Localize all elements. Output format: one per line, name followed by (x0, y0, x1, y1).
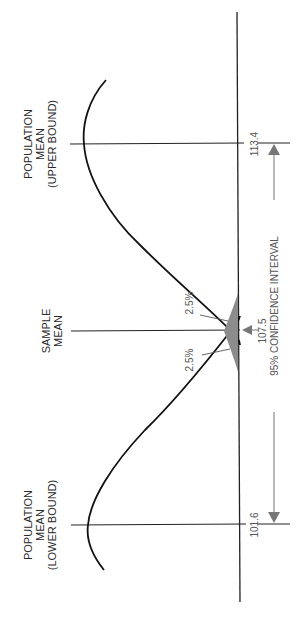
sample-mean-label-line2: MEAN (52, 315, 64, 347)
lower-bound-label-line2: MEAN (34, 509, 46, 541)
upper-bound-label-line2: MEAN (34, 128, 46, 160)
tick-upper: 113.4 (249, 131, 260, 156)
upper-bound-label: POPULATION MEAN (UPPER BOUND) (22, 100, 58, 188)
upper-bound-curve (84, 80, 240, 345)
upper-bound-label-line1: POPULATION (22, 109, 34, 179)
upper-bound-label-line3: (UPPER BOUND) (46, 100, 58, 188)
lower-bound-curve (88, 316, 240, 570)
upper-tail-label: 2.5% (184, 291, 195, 314)
lower-bound-label-line3: (LOWER BOUND) (46, 480, 58, 570)
confidence-interval-label: 95% CONFIDENCE INTERVAL (269, 236, 280, 376)
lower-bound-line (71, 524, 246, 525)
sample-mean-line (71, 330, 240, 331)
sample-mean-label-line1: SAMPLE (40, 309, 52, 354)
lower-bound-label-line1: POPULATION (22, 490, 34, 560)
ci-lower-arrowhead-icon (268, 512, 280, 523)
confidence-interval-diagram: POPULATION MEAN (UPPER BOUND) SAMPLE MEA… (0, 0, 308, 619)
sample-mean-arrow-icon (242, 325, 252, 335)
lower-bound-label: POPULATION MEAN (LOWER BOUND) (22, 480, 58, 570)
upper-bound-line (70, 143, 244, 144)
sample-mean-label: SAMPLE MEAN (40, 309, 64, 354)
tick-sample: 107.5 (257, 318, 268, 343)
upper-tail-pointer (200, 315, 228, 321)
lower-tail-label: 2.5% (184, 348, 195, 371)
ci-upper-arrowhead-icon (268, 144, 280, 155)
tick-lower: 101.6 (249, 512, 260, 537)
